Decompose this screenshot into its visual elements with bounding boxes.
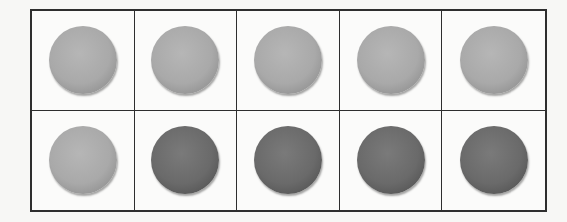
frame-cell: [32, 11, 135, 111]
light-counter-icon: [151, 26, 219, 94]
dark-counter-icon: [357, 126, 425, 194]
frame-cell: [237, 111, 340, 211]
frame-cell: [135, 11, 238, 111]
frame-cell: [340, 111, 443, 211]
frame-cell: [340, 11, 443, 111]
frame-cell: [32, 111, 135, 211]
ten-frame: [30, 9, 547, 212]
light-counter-icon: [49, 126, 117, 194]
frame-cell: [135, 111, 238, 211]
frame-cell: [237, 11, 340, 111]
frame-cell: [442, 11, 545, 111]
light-counter-icon: [254, 26, 322, 94]
frame-cell: [442, 111, 545, 211]
light-counter-icon: [49, 26, 117, 94]
light-counter-icon: [357, 26, 425, 94]
dark-counter-icon: [254, 126, 322, 194]
dark-counter-icon: [460, 126, 528, 194]
light-counter-icon: [460, 26, 528, 94]
dark-counter-icon: [151, 126, 219, 194]
